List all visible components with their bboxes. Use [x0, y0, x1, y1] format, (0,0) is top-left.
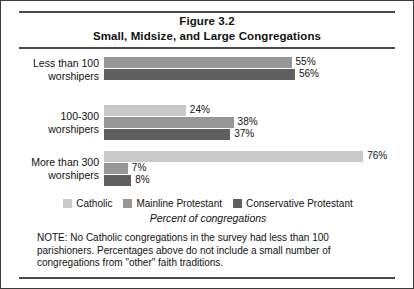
legend-item: Conservative Protestant	[233, 198, 353, 209]
legend-swatch-mainline	[123, 199, 132, 208]
bar-conservative-protestant	[104, 129, 230, 140]
category-label: 100-300worshipers	[9, 110, 99, 135]
category-label: More than 300worshipers	[9, 156, 99, 181]
legend-label: Catholic	[76, 198, 112, 209]
category-label-line1: 100-300	[9, 110, 99, 123]
figure-note: NOTE: No Catholic congregations in the s…	[37, 232, 367, 270]
legend-item: Catholic	[63, 198, 112, 209]
title-rule-bottom	[19, 47, 395, 49]
bar-conservative-protestant	[104, 69, 295, 80]
bar-mainline-protestant	[104, 117, 234, 128]
bar-value-label: 38%	[238, 116, 258, 128]
bar-value-label: 7%	[132, 162, 146, 174]
category-label-line1: Less than 100	[9, 57, 99, 70]
bar-chart-plot-area: Less than 100worshipers55%56%100-300wors…	[1, 53, 414, 193]
figure-title: Figure 3.2 Small, Midsize, and Large Con…	[19, 14, 395, 44]
bar-value-label: 8%	[135, 174, 149, 186]
bar-catholic	[104, 105, 186, 116]
bar-mainline-protestant	[104, 57, 292, 68]
bar-catholic	[104, 151, 363, 162]
bar-value-label: 24%	[190, 104, 210, 116]
legend-swatch-conservative	[233, 199, 242, 208]
category-label-line1: More than 300	[9, 156, 99, 169]
figure-title-line2: Small, Midsize, and Large Congregations	[19, 29, 395, 44]
figure-title-line1: Figure 3.2	[19, 14, 395, 29]
bar-value-label: 55%	[296, 56, 316, 68]
chart-legend: CatholicMainline ProtestantConservative …	[1, 198, 414, 209]
bar-value-label: 37%	[234, 128, 254, 140]
title-rule-top	[19, 11, 395, 13]
figure-rule-bottom	[19, 277, 395, 279]
bar-conservative-protestant	[104, 175, 131, 186]
legend-label: Conservative Protestant	[246, 198, 353, 209]
axis-title: Percent of congregations	[1, 212, 414, 224]
category-label-line2: worshipers	[9, 123, 99, 136]
bar-mainline-protestant	[104, 163, 128, 174]
legend-item: Mainline Protestant	[123, 198, 222, 209]
legend-label: Mainline Protestant	[136, 198, 222, 209]
category-label-line2: worshipers	[9, 70, 99, 83]
figure-container: Figure 3.2 Small, Midsize, and Large Con…	[0, 0, 414, 289]
bar-value-label: 76%	[367, 150, 387, 162]
legend-swatch-catholic	[63, 199, 72, 208]
category-label-line2: worshipers	[9, 169, 99, 182]
bar-value-label: 56%	[299, 68, 319, 80]
category-label: Less than 100worshipers	[9, 57, 99, 82]
